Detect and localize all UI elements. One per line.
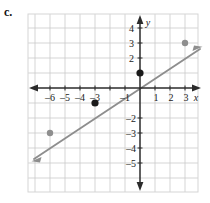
data-point-negative6-negative3 <box>47 130 53 136</box>
y-tick-label: –5 <box>125 158 136 169</box>
y-axis-label: y <box>145 17 151 28</box>
data-point-negative3-negative1 <box>91 99 98 106</box>
x-tick-label: –6 <box>44 92 55 103</box>
graph-figure: c. <box>0 0 210 203</box>
y-tick-label: –2 <box>125 113 136 124</box>
x-tick-label: –5 <box>59 92 70 103</box>
y-tick-label: 4 <box>129 23 134 34</box>
y-tick-label: –3 <box>125 128 136 139</box>
x-axis-label: x <box>193 92 199 103</box>
x-tick-label: –4 <box>74 92 85 103</box>
x-tick-label: 1 <box>154 92 159 103</box>
x-tick-label: –1 <box>119 92 130 103</box>
y-tick-label: 3 <box>129 38 134 49</box>
x-tick-label: 2 <box>169 92 174 103</box>
data-point-0-1 <box>136 69 143 76</box>
data-point-3-3 <box>182 40 188 46</box>
y-tick-label: 2 <box>129 53 134 64</box>
x-tick-label: 3 <box>184 92 189 103</box>
y-tick-label: –4 <box>125 143 136 154</box>
coordinate-plane: –6 –5 –4 –3 –1 1 2 3 x 4 3 2 –2 –3 –4 –5… <box>0 0 210 203</box>
